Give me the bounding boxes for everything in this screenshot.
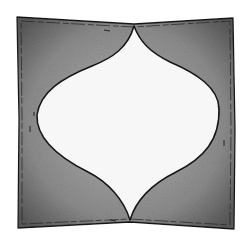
pillow-illustration xyxy=(0,0,251,244)
